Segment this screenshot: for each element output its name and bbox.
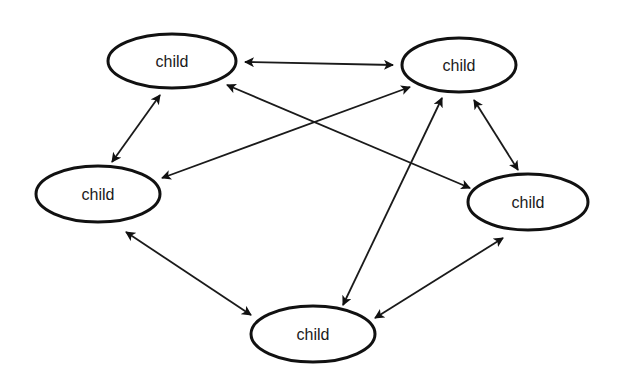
node-label: child [512, 194, 545, 211]
network-diagram: childchildchildchildchild [0, 0, 624, 385]
bidirectional-arrow-n4-n5 [375, 238, 503, 318]
node-n3: child [36, 166, 160, 222]
bidirectional-arrow-n2-n3 [162, 87, 410, 178]
node-label: child [297, 326, 330, 343]
nodes-group: childchildchildchildchild [36, 34, 588, 362]
bidirectional-arrow-n1-n4 [227, 85, 470, 188]
node-label: child [443, 57, 476, 74]
bidirectional-arrow-n1-n2 [245, 62, 393, 65]
node-n1: child [108, 34, 236, 88]
node-n5: child [251, 306, 375, 362]
bidirectional-arrow-n2-n4 [474, 100, 518, 170]
node-n4: child [468, 174, 588, 230]
node-label: child [156, 53, 189, 70]
bidirectional-arrow-n3-n5 [126, 232, 251, 315]
edges-group [112, 62, 518, 318]
node-label: child [82, 186, 115, 203]
node-n2: child [402, 38, 516, 92]
bidirectional-arrow-n1-n3 [112, 95, 160, 162]
bidirectional-arrow-n2-n5 [343, 98, 442, 305]
